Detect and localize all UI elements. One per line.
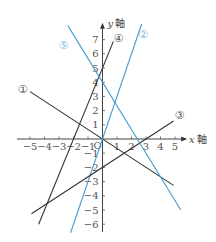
axes: x軸y軸 bbox=[17, 17, 207, 232]
x-tick-label: −4 bbox=[37, 141, 52, 152]
line-label: ④ bbox=[114, 32, 124, 45]
ticks: O−5−4−3−2−112345−6−5−4−3−2−11234567 bbox=[23, 34, 179, 230]
coordinate-plot: x軸y軸 O−5−4−3−2−112345−6−5−4−3−2−11234567… bbox=[0, 0, 216, 242]
x-tick-label: 5 bbox=[172, 141, 178, 152]
y-tick-label: 1 bbox=[92, 119, 98, 130]
y-tick-label: 7 bbox=[92, 34, 98, 45]
x-tick-label: 4 bbox=[157, 141, 163, 152]
y-tick-label: 2 bbox=[92, 105, 98, 116]
y-tick-label: 5 bbox=[92, 63, 98, 74]
y-tick-label: 3 bbox=[92, 91, 98, 102]
line-label: ⑤ bbox=[58, 39, 68, 52]
y-tick-label: 6 bbox=[92, 48, 98, 59]
x-axis-title: x軸 bbox=[189, 133, 207, 145]
line-label: ③ bbox=[174, 109, 184, 122]
x-tick-label: −3 bbox=[52, 141, 67, 152]
line-label: ② bbox=[138, 28, 148, 41]
y-tick-label: −5 bbox=[84, 205, 99, 216]
y-tick-label: −4 bbox=[84, 190, 99, 201]
y-axis-title: y軸 bbox=[107, 17, 126, 29]
line-labels: ①②③④⑤ bbox=[18, 28, 185, 122]
line-label: ① bbox=[18, 83, 28, 96]
x-tick-label: −5 bbox=[23, 141, 38, 152]
y-tick-label: −6 bbox=[84, 219, 99, 230]
plot-lines bbox=[30, 24, 181, 233]
